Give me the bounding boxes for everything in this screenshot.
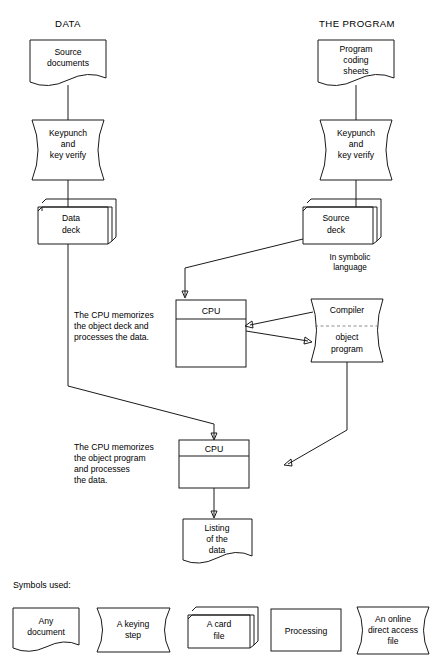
node-source-documents-line-0: Source <box>54 47 81 57</box>
node-keypunch-right-line-0: Keypunch <box>337 128 375 138</box>
connector-source-deck-to-cpu-one <box>185 239 303 296</box>
legend-item-keying-step: A keying step <box>97 608 170 652</box>
node-program-coding-sheets-line-1: coding <box>343 55 369 65</box>
caption-cpu-two-line-0: The CPU memorizes <box>74 442 154 452</box>
legend-item-document-line-0: Any <box>39 616 55 626</box>
node-keypunch-left-line-1: and <box>61 139 76 149</box>
legend-item-card-file: A card file <box>188 607 258 648</box>
node-listing-line-0: Listing <box>205 523 230 533</box>
legend-item-processing: Processing <box>271 609 341 651</box>
node-cpu-two-header: CPU <box>205 444 224 454</box>
node-listing-line-1: of the <box>206 534 228 544</box>
legend-item-online-line-1: direct access <box>368 625 418 635</box>
legend-item-keying-step-line-1: step <box>125 630 141 640</box>
connector-cpu-one-to-compiler <box>246 331 308 341</box>
node-cpu-one: CPU <box>176 300 246 367</box>
legend-item-card-file-line-0: A card <box>207 619 232 629</box>
node-data-deck-line-1: deck <box>62 225 81 235</box>
legend-item-keying-step-line-0: A keying <box>117 619 150 629</box>
node-object-program-line-1: program <box>331 344 363 354</box>
node-source-documents: Source documents <box>30 40 106 86</box>
node-keypunch-right-line-2: key verify <box>338 150 375 160</box>
node-compiler-object-program: Compiler object program <box>311 299 383 362</box>
node-source-deck-line-0: Source <box>322 213 349 223</box>
node-keypunch-right: Keypunch and key verify <box>320 120 392 180</box>
column-heading-program: THE PROGRAM <box>319 18 395 29</box>
legend-item-document: Any document <box>13 608 79 651</box>
connector-compiler-to-cpu-one <box>250 312 313 325</box>
node-source-deck-line-1: deck <box>327 225 346 235</box>
legend-item-card-file-line-1: file <box>214 631 225 641</box>
node-compiler-label: Compiler <box>330 305 365 315</box>
node-source-documents-line-1: documents <box>47 58 89 68</box>
legend-item-online-line-0: An online <box>375 614 411 624</box>
legend-title: Symbols used: <box>13 580 71 590</box>
note-source-deck-line-1: language <box>333 263 367 272</box>
column-heading-data: DATA <box>55 18 81 29</box>
caption-cpu-two-line-1: the object program <box>74 453 146 463</box>
legend-item-processing-line-0: Processing <box>285 626 328 636</box>
caption-cpu-two-line-3: the data. <box>74 475 107 485</box>
caption-cpu-one-line-2: processes the data. <box>74 332 149 342</box>
node-data-deck-line-0: Data <box>62 213 80 223</box>
node-keypunch-left-line-0: Keypunch <box>49 128 87 138</box>
legend-item-document-line-1: document <box>27 627 65 637</box>
node-listing: Listing of the data <box>183 519 252 563</box>
node-program-coding-sheets-line-2: sheets <box>343 66 368 76</box>
node-program-coding-sheets-line-0: Program <box>340 44 373 54</box>
caption-cpu-one-line-0: The CPU memorizes <box>74 310 154 320</box>
node-object-program-line-0: object <box>336 332 360 342</box>
node-data-deck: Data deck <box>38 199 116 244</box>
caption-cpu-one-line-1: the object deck and <box>74 321 149 331</box>
node-program-coding-sheets: Program coding sheets <box>318 40 394 86</box>
connector-object-program-to-cpu-two <box>288 362 347 464</box>
note-source-deck-line-0: In symbolic <box>330 253 371 262</box>
caption-cpu-two-line-2: and processes <box>74 464 130 474</box>
node-keypunch-right-line-1: and <box>349 139 364 149</box>
legend-item-online-direct-access-file: An online direct access file <box>357 607 429 654</box>
node-listing-line-2: data <box>209 545 226 555</box>
node-cpu-one-header: CPU <box>202 306 221 316</box>
legend-item-online-line-2: file <box>388 636 399 646</box>
node-source-deck: Source deck <box>303 199 381 244</box>
node-keypunch-left: Keypunch and key verify <box>32 120 104 180</box>
flowchart-diagram: DATA THE PROGRAM Source documents Keypun… <box>0 0 439 670</box>
node-cpu-two: CPU <box>179 440 249 488</box>
node-keypunch-left-line-2: key verify <box>50 150 87 160</box>
